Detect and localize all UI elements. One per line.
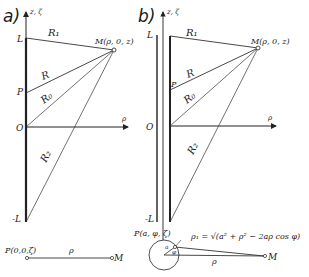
bottom-M-label: M — [113, 253, 124, 263]
label-R: R — [39, 69, 51, 83]
label-R2: R₂ — [185, 141, 201, 157]
z-axis-label: z, ζ — [166, 8, 180, 16]
segment-R1 — [170, 36, 258, 48]
panel-b-label: b) — [138, 6, 155, 26]
label-R2: R₂ — [38, 149, 54, 165]
tick-minus-L: -L — [12, 214, 21, 224]
segment-R0 — [26, 50, 114, 127]
tick-P: P — [16, 87, 24, 97]
formula-rho1: ρ₁ = √(a² + ρ² − 2aρ cos φ) — [190, 232, 300, 241]
bottom-rho-label: ρ — [68, 246, 74, 255]
panel-a-label: a) — [3, 6, 20, 26]
tick-O: O — [16, 123, 24, 133]
panel-a: a) z, ζ ρ L P O -L M(ρ, 0, z) R₁ R R₀ R₂… — [3, 6, 134, 263]
point-M-label: M(ρ, 0, z) — [250, 37, 290, 46]
segment-R — [170, 48, 258, 90]
panel-b: b) z, ζ ρ L P O -L M(ρ, 0, z) R₁ R R₀ R₂… — [133, 6, 300, 270]
tick-L: L — [146, 30, 153, 40]
z-axis-label: z, ζ — [29, 8, 43, 16]
label-R0: R₀ — [38, 90, 55, 106]
bottom-rho-label: ρ — [211, 257, 217, 266]
tick-O: O — [146, 122, 154, 132]
bottom-P-label: P(a, φ, ζ) — [133, 229, 171, 238]
angle-a-label: a — [165, 243, 169, 250]
label-R1: R₁ — [47, 27, 60, 38]
segment-R2 — [26, 50, 114, 222]
rho-axis-label: ρ — [267, 114, 273, 122]
bottom-M-label: M — [267, 252, 278, 262]
rho1-line — [175, 247, 264, 256]
label-R1: R₁ — [185, 27, 198, 38]
point-M — [256, 46, 260, 50]
segment-R2 — [170, 48, 258, 222]
tick-minus-L: -L — [145, 214, 154, 224]
bottom-P-label: P(0,0,ζ) — [4, 246, 36, 255]
segment-R0 — [170, 48, 258, 126]
bottom-point-M — [263, 254, 266, 257]
point-M — [112, 48, 116, 52]
diagram-canvas: a) z, ζ ρ L P O -L M(ρ, 0, z) R₁ R R₀ R₂… — [0, 0, 309, 277]
point-M-label: M(ρ, 0, z) — [94, 37, 134, 46]
tick-L: L — [16, 34, 23, 44]
rho-axis-label: ρ — [121, 115, 127, 123]
